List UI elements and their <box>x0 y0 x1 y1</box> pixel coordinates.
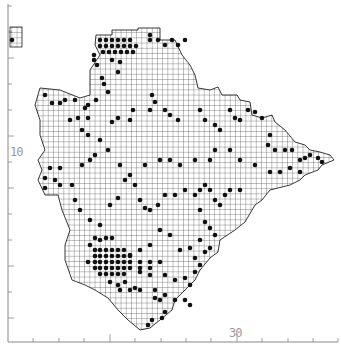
record-dot <box>148 243 153 248</box>
record-dot <box>98 254 103 259</box>
record-dot <box>198 188 203 193</box>
x-axis-ticks <box>33 334 338 342</box>
record-dot <box>116 70 121 75</box>
record-dot <box>128 266 133 271</box>
record-dot <box>193 193 198 198</box>
record-dot <box>119 50 124 55</box>
record-dot <box>148 33 153 38</box>
record-dot <box>163 293 168 298</box>
record-dot <box>10 38 15 43</box>
record-dot <box>78 208 83 213</box>
record-dot <box>308 153 313 158</box>
record-dot <box>98 44 103 49</box>
record-dot <box>158 298 163 303</box>
record-dot <box>168 113 173 118</box>
record-dot <box>86 260 91 265</box>
record-dot <box>128 254 133 259</box>
record-dot <box>150 318 155 323</box>
record-dot <box>43 93 48 98</box>
record-dot <box>303 156 308 161</box>
x-axis-label: 30 <box>229 326 241 340</box>
record-dot <box>110 254 115 259</box>
record-dot <box>213 123 218 128</box>
record-dot <box>116 196 121 201</box>
record-dot <box>104 248 109 253</box>
record-dot <box>116 248 121 253</box>
record-dot <box>116 283 121 288</box>
record-dot <box>104 272 109 277</box>
record-dot <box>153 296 158 301</box>
y-axis-ticks <box>8 6 14 318</box>
record-dot <box>188 283 193 288</box>
record-dot <box>131 108 136 113</box>
record-dot <box>148 108 153 113</box>
record-dot <box>104 266 109 271</box>
inset-grid <box>10 27 22 47</box>
record-dot <box>70 183 75 188</box>
record-dot <box>153 100 158 105</box>
record-dot <box>116 266 121 271</box>
record-dot <box>95 63 100 68</box>
record-dot <box>93 260 98 265</box>
record-dot <box>203 118 208 123</box>
record-dot <box>128 118 133 123</box>
record-dot <box>283 148 288 153</box>
record-dot <box>163 193 168 198</box>
record-dot <box>104 38 109 43</box>
record-dot <box>128 260 133 265</box>
record-dot <box>183 188 188 193</box>
record-dot <box>290 148 295 153</box>
record-dot <box>53 178 58 183</box>
record-dot <box>148 208 153 213</box>
record-dot <box>138 270 143 275</box>
record-dot <box>268 170 273 175</box>
record-dot <box>73 198 78 203</box>
record-dot <box>98 38 103 43</box>
record-dot <box>138 266 143 271</box>
record-dot <box>298 170 303 175</box>
record-dot <box>133 183 138 188</box>
record-dot <box>208 226 213 231</box>
record-dot <box>92 53 97 58</box>
record-dot <box>238 118 243 123</box>
record-dot <box>198 208 203 213</box>
record-dot <box>203 183 208 188</box>
record-dot <box>233 116 238 121</box>
record-dot <box>98 223 103 228</box>
record-dot <box>83 106 88 111</box>
record-dot <box>98 248 103 253</box>
record-dot <box>316 156 321 161</box>
record-dot <box>228 148 233 153</box>
record-dot <box>122 272 127 277</box>
record-dot <box>178 163 183 168</box>
record-dot <box>88 243 93 248</box>
record-dot <box>148 273 153 278</box>
record-dot <box>110 236 115 241</box>
record-dot <box>131 50 136 55</box>
record-dot <box>148 260 153 265</box>
record-dot <box>86 116 91 121</box>
record-dot <box>168 233 173 238</box>
record-dot <box>183 38 188 43</box>
grid-region <box>0 0 341 355</box>
record-dot <box>110 120 115 125</box>
record-dot <box>188 246 193 251</box>
record-dot <box>143 163 148 168</box>
record-dot <box>163 108 168 113</box>
record-dot <box>48 166 53 171</box>
record-dot <box>176 43 181 48</box>
record-dot <box>110 58 115 63</box>
record-dot <box>176 118 181 123</box>
record-dot <box>73 98 78 103</box>
record-dot <box>98 272 103 277</box>
record-dot <box>118 60 123 65</box>
record-dot <box>58 166 63 171</box>
record-dot <box>110 248 115 253</box>
record-dot <box>163 43 168 48</box>
record-dot <box>163 273 168 278</box>
record-dot <box>158 228 163 233</box>
record-dot <box>88 218 93 223</box>
record-dot <box>156 203 161 208</box>
record-dot <box>110 272 115 277</box>
record-dot <box>156 38 161 43</box>
